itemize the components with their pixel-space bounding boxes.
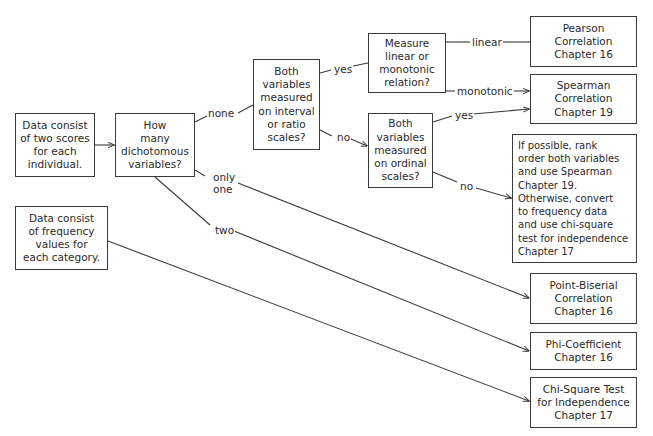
node-two-scores: Data consist of two scores for each indi…	[15, 113, 95, 177]
node-interval-ratio-text: Both variables measured on interval or r…	[258, 65, 314, 144]
node-spearman: Spearman Correlation Chapter 19	[530, 74, 637, 124]
node-two-scores-text: Data consist of two scores for each indi…	[20, 119, 90, 172]
edge-label-only-one: only one	[212, 171, 236, 195]
node-frequency-text: Data consist of frequency values for eac…	[23, 212, 100, 265]
edge-how-many-none-a	[195, 116, 207, 122]
edge-label-linear: linear	[471, 36, 503, 48]
node-pearson-text: Pearson Correlation Chapter 16	[554, 22, 613, 62]
node-phi-text: Phi-Coefficient Chapter 16	[546, 338, 622, 364]
node-ordinal-text: Both variables measured on ordinal scale…	[374, 117, 427, 183]
node-point-biserial-text: Point-Biserial Correlation Chapter 16	[549, 279, 617, 319]
edge-ordinal-no-b	[476, 188, 511, 198]
edge-ordinal-yes-b	[473, 109, 529, 114]
node-if-possible: If possible, rank order both variables a…	[512, 134, 637, 263]
edge-label-monotonic: monotonic	[456, 85, 514, 97]
node-how-many-dichotomous: How many dichotomous variables?	[115, 113, 195, 177]
edge-label-yes-ordinal: yes	[454, 109, 474, 121]
edge-label-yes-interval: yes	[333, 63, 353, 75]
node-ordinal: Both variables measured on ordinal scale…	[368, 113, 433, 188]
node-frequency: Data consist of frequency values for eac…	[15, 206, 108, 270]
edge-interval-yes-a	[320, 70, 331, 73]
edge-how-many-only-one-b	[238, 183, 529, 298]
node-chi-square-text: Chi-Square Test for Independence Chapter…	[537, 383, 629, 423]
edge-label-no-interval: no	[336, 131, 351, 143]
node-chi-square: Chi-Square Test for Independence Chapter…	[530, 377, 637, 428]
node-pearson: Pearson Correlation Chapter 16	[530, 16, 637, 67]
edge-how-many-two-b	[234, 231, 529, 351]
edge-interval-no-a	[320, 130, 332, 136]
node-linear-monotonic: Measure linear or monotonic relation?	[368, 33, 446, 93]
edge-label-none: none	[207, 107, 235, 119]
edge-how-many-only-one-a	[195, 170, 205, 176]
node-phi-coefficient: Phi-Coefficient Chapter 16	[530, 332, 637, 370]
node-interval-ratio: Both variables measured on interval or r…	[253, 59, 320, 150]
node-linear-monotonic-text: Measure linear or monotonic relation?	[379, 37, 435, 90]
edge-interval-yes-b	[353, 63, 368, 66]
edge-how-many-none-b	[238, 105, 253, 113]
edge-label-two: two	[214, 224, 235, 236]
edge-ordinal-no-a	[433, 172, 457, 182]
node-spearman-text: Spearman Correlation Chapter 19	[554, 79, 613, 119]
edge-how-many-two-a	[155, 177, 210, 225]
edge-label-no-ordinal: no	[459, 180, 474, 192]
edge-ordinal-yes-a	[433, 116, 452, 122]
node-how-many-text: How many dichotomous variables?	[121, 119, 189, 172]
node-if-possible-text: If possible, rank order both variables a…	[518, 139, 628, 259]
node-point-biserial: Point-Biserial Correlation Chapter 16	[530, 273, 637, 324]
edge-interval-no-b	[351, 139, 367, 146]
